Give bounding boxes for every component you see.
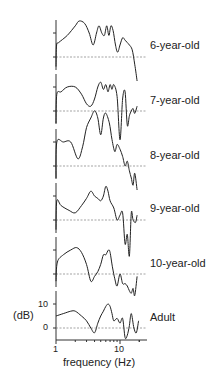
- series-label-8: 8-year-old: [150, 149, 200, 161]
- series-curve-8-year-old: [56, 111, 137, 190]
- series-curve-6-year-old: [56, 21, 137, 81]
- chart-svg: [0, 0, 220, 389]
- series-curve-9-year-old: [56, 186, 137, 256]
- x-tick-1: 1: [53, 344, 58, 354]
- series-label-9: 9-year-old: [150, 202, 200, 214]
- series-label-10: 10-year-old: [150, 257, 206, 269]
- x-tick-10: 10: [114, 344, 124, 354]
- series-curve-adult: [56, 304, 139, 339]
- series-label-adult: Adult: [150, 311, 175, 323]
- x-axis-label: frequency (Hz): [63, 356, 135, 368]
- y-tick-10: 10: [38, 299, 48, 309]
- y-axis-label: (dB): [13, 309, 34, 321]
- series-label-7: 7-year-old: [150, 94, 200, 106]
- series-label-6: 6-year-old: [150, 39, 200, 51]
- series-curve-10-year-old: [56, 248, 137, 296]
- y-tick-0: 0: [43, 322, 48, 332]
